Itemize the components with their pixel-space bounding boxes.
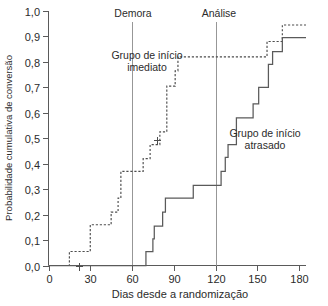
y-tick-label: 1,0 [25,6,40,18]
series-label-delayed-line1: Grupo de início [229,127,300,139]
reference-label-demora: Demora [114,7,152,19]
y-tick-label: 0,1 [25,235,40,247]
series-label-immediate-line2: imediato [127,61,167,73]
x-axis-title: Dias desde a randomização [112,288,248,300]
x-tick-label: 180 [290,273,308,285]
series-curve-delayed [49,38,307,266]
y-tick-label: 0,4 [25,159,40,171]
x-tick-label: 0 [46,273,52,285]
y-tick-label: 0,5 [25,133,40,145]
series-label-immediate-line1: Grupo de início [111,49,182,61]
y-tick-label: 0,9 [25,31,40,43]
cumulative-conversion-chart: 0,00,10,20,30,40,50,60,70,80,91,0 030609… [0,0,328,306]
x-tick-label: 150 [248,273,266,285]
y-tick-label: 0,6 [25,108,40,120]
x-axis-ticks [50,266,300,272]
y-tick-label: 0,8 [25,57,40,69]
y-tick-label: 0,2 [25,210,40,222]
y-axis-title: Probabilidade cumulativa de conversão [3,55,14,221]
y-axis-tick-labels: 0,00,10,20,30,40,50,60,70,80,91,0 [25,6,40,273]
x-tick-label: 90 [168,273,180,285]
y-tick-label: 0,7 [25,82,40,94]
chart-figure: 0,00,10,20,30,40,50,60,70,80,91,0 030609… [0,0,328,306]
x-tick-label: 60 [126,273,138,285]
series-label-delayed-line2: atrasado [245,139,286,151]
censoring-marks [76,137,161,271]
x-tick-label: 120 [207,273,225,285]
y-tick-label: 0,0 [25,261,40,273]
y-tick-label: 0,3 [25,184,40,196]
y-axis-ticks [43,12,49,267]
x-tick-label: 30 [84,273,96,285]
x-axis-tick-labels: 0306090120150180 [46,273,308,285]
reference-label-analise: Análise [202,7,237,19]
